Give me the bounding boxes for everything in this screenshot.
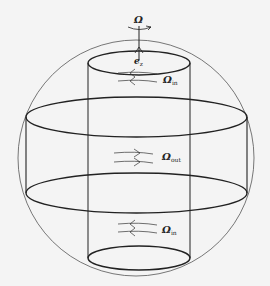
- flow-arrows-inner-bottom: [118, 220, 157, 236]
- flow-arrows-inner-top: [118, 69, 157, 85]
- flow-arrows-outer-middle: [114, 149, 153, 166]
- omega-label: Ω: [134, 14, 143, 25]
- omega-out-label: Ωout: [162, 151, 181, 163]
- omega-in-top-label: Ωin: [163, 74, 178, 86]
- omega-in-bottom-label: Ωin: [162, 224, 177, 236]
- ez-label: ez: [134, 56, 143, 67]
- rotation-axis: [135, 26, 143, 60]
- diagram-canvas: [0, 0, 270, 286]
